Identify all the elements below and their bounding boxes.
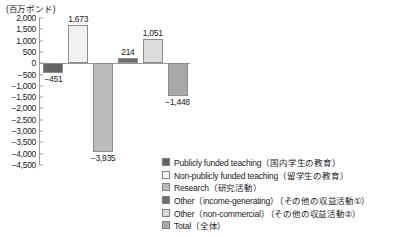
y-axis-tick-label: −1,500	[12, 92, 36, 102]
y-axis-tick-label: −3,500	[12, 137, 36, 147]
y-axis-tick-label: 1,000	[16, 36, 36, 46]
y-axis-tick-label: −1,000	[12, 81, 36, 91]
bar-value-label: 1,673	[61, 14, 96, 24]
bar	[43, 63, 63, 73]
bar-value-label: 1,051	[135, 28, 170, 38]
y-axis-tick-label: −4,000	[12, 149, 36, 159]
legend-item[interactable]: Non-publicly funded teaching（留学生の教育）	[162, 169, 402, 182]
y-axis-tick-mark	[39, 40, 43, 41]
legend-item-label: Non-publicly funded teaching（留学生の教育）	[174, 169, 348, 181]
legend-swatch-icon	[162, 196, 170, 204]
legend-swatch-icon	[162, 171, 170, 179]
bar	[118, 58, 138, 63]
bar-value-label: −1,448	[160, 97, 195, 107]
y-axis-tick-label: −2,500	[12, 115, 36, 125]
bar-value-label: −3,935	[86, 153, 121, 163]
legend-item-label: Other（income-generating）（その他の収益活動①）	[174, 194, 370, 206]
y-axis-tick-mark	[39, 51, 43, 52]
y-axis-tick-mark	[39, 131, 43, 132]
y-axis-tick-label: 1,500	[16, 24, 36, 34]
y-axis-tick-mark	[39, 85, 43, 86]
bar	[143, 39, 163, 63]
legend-swatch-icon	[162, 221, 170, 229]
chart-legend: Publicly funded teaching（国内学生の教育）Non-pub…	[162, 156, 402, 232]
y-axis-tick-mark	[39, 97, 43, 98]
legend-item[interactable]: Other（income-generating）（その他の収益活動①）	[162, 194, 402, 207]
y-axis-tick-mark	[39, 153, 43, 154]
y-axis-tick-label: 2,000	[16, 13, 36, 23]
bar	[168, 63, 188, 96]
legend-item[interactable]: Other（non-commercial）（その他の収益活動②）	[162, 206, 402, 219]
plot-area: 2,0001,5001,0005000−500−1,000−1,500−2,00…	[39, 18, 190, 165]
y-axis-tick-label: 500	[23, 47, 36, 57]
legend-item-label: Research（研究活動）	[174, 181, 262, 193]
bar	[93, 63, 113, 152]
y-axis-tick-mark	[39, 165, 43, 166]
legend-item[interactable]: Total（全体）	[162, 219, 402, 232]
y-axis-tick-mark	[39, 29, 43, 30]
legend-swatch-icon	[162, 209, 170, 217]
y-axis-tick-label: −3,000	[12, 126, 36, 136]
y-axis-tick-mark	[39, 142, 43, 143]
y-axis-tick-mark	[39, 108, 43, 109]
bar-chart: (百万ポンド) 2,0001,5001,0005000−500−1,000−1,…	[0, 0, 403, 237]
y-axis-tick-label: −500	[18, 70, 36, 80]
legend-item-label: Total（全体）	[174, 219, 226, 231]
bar-value-label: −451	[36, 74, 71, 84]
y-axis-tick-label: −4,500	[12, 160, 36, 170]
legend-item[interactable]: Publicly funded teaching（国内学生の教育）	[162, 156, 402, 169]
y-axis-tick-label: −2,000	[12, 103, 36, 113]
legend-item[interactable]: Research（研究活動）	[162, 181, 402, 194]
bar-value-label: 214	[111, 47, 146, 57]
y-axis-tick-mark	[39, 18, 43, 19]
legend-swatch-icon	[162, 183, 170, 191]
legend-item-label: Other（non-commercial）（その他の収益活動②）	[174, 207, 361, 219]
legend-swatch-icon	[162, 158, 170, 166]
y-axis-tick-mark	[39, 119, 43, 120]
y-axis-tick-label: 0	[32, 58, 36, 68]
legend-item-label: Publicly funded teaching（国内学生の教育）	[174, 156, 341, 168]
bar	[68, 25, 88, 63]
